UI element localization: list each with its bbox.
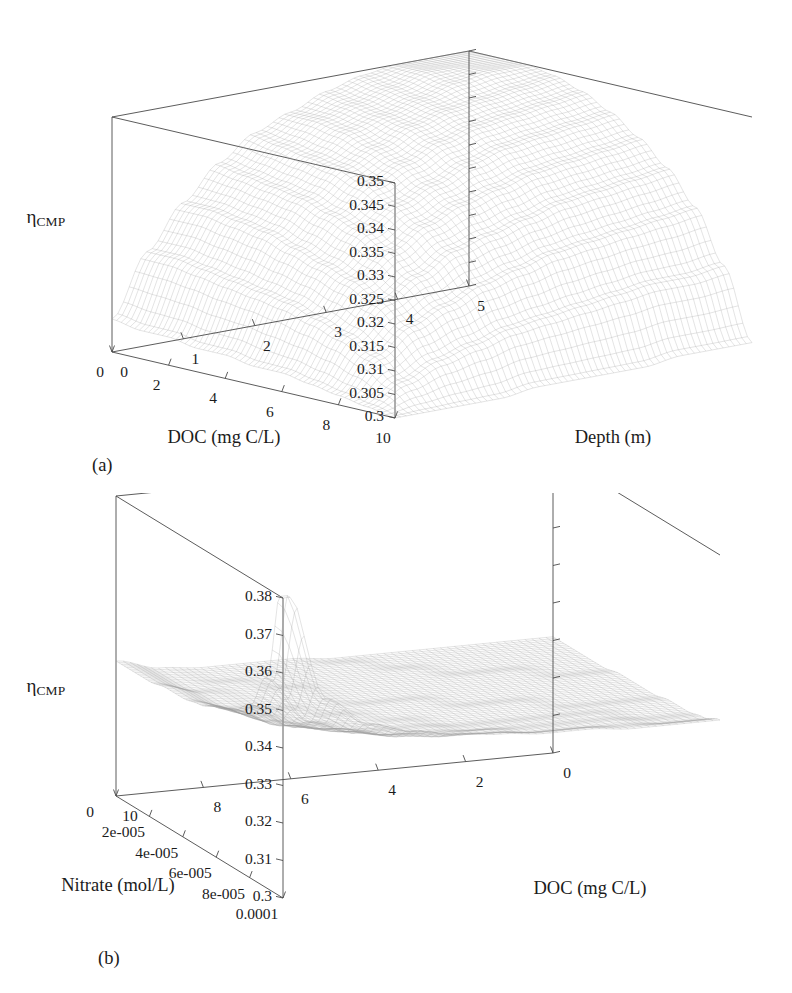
box-top-rim (112, 51, 752, 183)
z-tick-right (553, 564, 560, 566)
x-axis-title-b: Nitrate (mol/L) (61, 875, 175, 896)
z-tick-label: 0.38 (245, 588, 272, 604)
eta-symbol: η (26, 206, 36, 227)
x-tick-label: 8e-005 (202, 886, 245, 902)
x-tick (183, 830, 186, 837)
surface-mesh (112, 51, 752, 418)
y-tick-label: 1 (192, 351, 200, 367)
y-axis-title-b: DOC (mg C/L) (533, 878, 646, 899)
x-tick-label: 0 (96, 364, 104, 380)
y-tick-label: 10 (122, 808, 138, 824)
y-tick-label: 3 (334, 325, 342, 341)
y-tick-label: 6 (301, 791, 309, 807)
box-top-rim (116, 493, 720, 598)
panel-label-a: (a) (92, 455, 113, 476)
z-tick-right (469, 49, 476, 51)
x-tick-label: 2e-005 (102, 825, 145, 841)
z-tick-label: 0.31 (245, 851, 272, 867)
plot-a-canvas (0, 0, 792, 500)
z-tick-label: 0.36 (245, 663, 272, 679)
mesh-line-v (152, 249, 435, 411)
z-tick-left (276, 821, 283, 823)
mesh-line-u (290, 144, 647, 375)
z-tick-label: 0.33 (357, 267, 384, 283)
mesh-line-u (167, 64, 524, 337)
mesh-line-v (388, 67, 671, 359)
z-tick-left (276, 746, 283, 748)
x-tick (169, 359, 172, 366)
mesh-line-v (429, 58, 712, 350)
z-tick-label: 0.31 (357, 361, 384, 377)
z-tick-label: 0.325 (349, 291, 384, 307)
mesh-line-u (158, 62, 515, 335)
mesh-line-u (121, 53, 478, 322)
mesh-line-u (130, 55, 487, 326)
y-tick-label: 5 (477, 298, 485, 314)
mesh-line-u (162, 63, 519, 336)
z-tick-label: 0.32 (245, 813, 272, 829)
mesh-line-u (340, 208, 697, 396)
mesh-line-u (363, 262, 720, 405)
x-tick (216, 851, 219, 858)
x-axis-title-a: DOC (mg C/L) (167, 427, 280, 448)
y-tick (252, 319, 255, 326)
z-tick-label: 0.315 (349, 338, 384, 354)
z-tick-left (276, 784, 283, 786)
z-tick-label: 0.35 (357, 173, 384, 189)
x-tick-label: 4e-005 (135, 845, 178, 861)
mesh-line-v (164, 230, 447, 408)
surface-plot-panel-a: 0.30.3050.310.3150.320.3250.330.3350.340… (0, 0, 792, 500)
x-tick (225, 372, 228, 379)
z-tick-label: 0.34 (245, 738, 272, 754)
z-tick-label: 0.33 (245, 776, 272, 792)
z-tick-left (276, 859, 283, 861)
x-tick-label: 0 (86, 804, 94, 820)
x-tick (149, 810, 152, 817)
mesh-line-v (158, 241, 441, 410)
plot-b-canvas (0, 493, 792, 993)
x-tick (282, 385, 285, 392)
y-tick-label: 0 (120, 364, 128, 380)
mesh-line-u (237, 703, 674, 729)
y-tick-label: 2 (263, 338, 271, 354)
mesh-line-v (302, 107, 585, 379)
x-tick-label: 6 (266, 404, 274, 420)
mesh-line-v (262, 130, 545, 385)
y-tick-label: 0 (563, 765, 571, 781)
eta-symbol: η (26, 675, 36, 696)
z-tick-left (276, 634, 283, 636)
panel-label-b: (b) (98, 948, 120, 969)
z-tick-right (553, 526, 560, 528)
z-tick-label: 0.3 (253, 888, 272, 904)
surface-mesh (116, 596, 720, 737)
y-axis-title-a: Depth (m) (575, 427, 652, 448)
x-tick-label: 8 (323, 417, 331, 433)
z-tick-right (469, 214, 476, 216)
mesh-line-v (423, 60, 706, 352)
mesh-line-u (331, 200, 688, 393)
mesh-line-u (368, 266, 725, 407)
z-tick-label: 0.35 (245, 701, 272, 717)
x-tick-label: 4 (209, 391, 217, 407)
z-tick-right (553, 751, 560, 753)
mesh-line-v (394, 65, 677, 357)
y-tick-label: 4 (388, 782, 396, 798)
mesh-line-v (440, 648, 607, 729)
eta-subscript: CMP (36, 214, 65, 229)
z-axis-label-a: ηCMP (26, 206, 65, 229)
x-tick-label: 0.0001 (236, 906, 279, 922)
mesh-line-v (244, 140, 527, 390)
y-tick (201, 781, 204, 788)
y-tick-label: 4 (406, 311, 414, 327)
mesh-line-u (222, 90, 579, 354)
y-axis-line (116, 753, 553, 796)
z-tick-label: 0.32 (357, 314, 384, 330)
y-tick (376, 764, 379, 771)
mesh-line-v (314, 98, 597, 376)
mesh-line-v (187, 201, 470, 404)
y-tick (288, 772, 291, 779)
mesh-line-v (193, 195, 476, 403)
x-tick-label: 2 (153, 377, 161, 393)
z-tick-label: 0.37 (245, 626, 272, 642)
z-tick-label: 0.3 (365, 408, 384, 424)
